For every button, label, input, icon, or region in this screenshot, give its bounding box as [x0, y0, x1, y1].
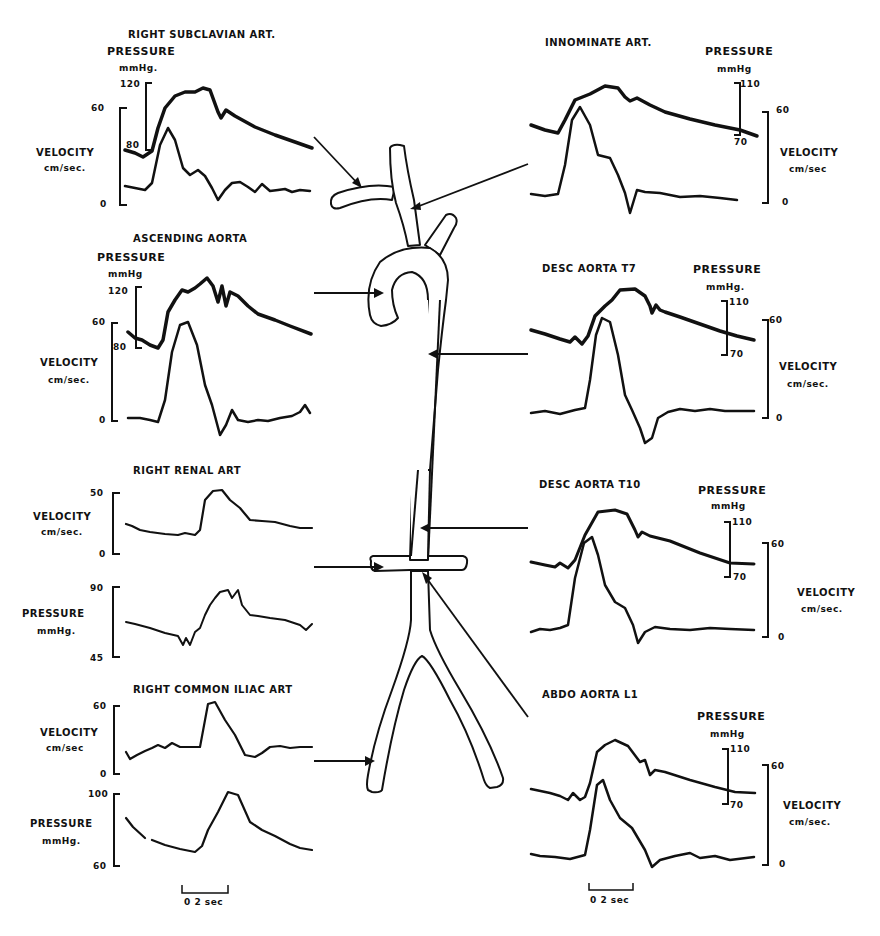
pressure-axis [113, 587, 120, 657]
velocity-unit: cm/sec. [48, 376, 90, 385]
pressure-tick-max: 110 [729, 298, 749, 307]
velocity-tick-max: 60 [776, 106, 790, 115]
pressure-tick-max: 110 [730, 745, 750, 754]
pressure-label: PRESSURE [107, 46, 175, 57]
pressure-axis [114, 794, 120, 866]
pressure-tick-min: 70 [730, 801, 744, 810]
panel-title-desc-aorta-t7: DESC AORTA T7 [542, 264, 636, 274]
pressure-axis [722, 749, 728, 804]
velocity-tick-min: 0 [100, 770, 107, 779]
velocity-tick-max: 60 [93, 702, 107, 711]
velocity-tick-min: 0 [778, 633, 785, 642]
scale-bar-right-label: 0 2 sec [590, 896, 629, 905]
pressure-trace [531, 86, 757, 136]
velocity-unit: cm/sec. [789, 818, 831, 827]
pressure-axis [721, 301, 727, 355]
panel-title-desc-aorta-t10: DESC AORTA T10 [539, 480, 641, 490]
pressure-tick-max: 120 [120, 80, 140, 89]
pressure-tick-max: 100 [88, 790, 108, 799]
pressure-tick-max: 110 [732, 518, 752, 527]
pressure-tick-max: 90 [90, 584, 104, 593]
pressure-tick-max: 110 [740, 80, 760, 89]
pressure-tick-min: 70 [730, 350, 744, 359]
panel-ascending-aorta-traces [112, 278, 311, 435]
pressure-iliac-trace [126, 792, 312, 852]
pressure-unit: mmHg. [37, 627, 76, 636]
panel-innominate-traces [531, 83, 768, 213]
velocity-tick-min: 0 [100, 200, 107, 209]
velocity-tick-min: 0 [99, 416, 106, 425]
velocity-axis [762, 543, 768, 637]
panel-title-abdo-aorta-l1: ABDO AORTA L1 [542, 690, 638, 700]
velocity-label: VELOCITY [783, 801, 841, 811]
pressure-tick-min: 70 [733, 573, 747, 582]
arrow-innominate [414, 164, 528, 208]
pressure-label: PRESSURE [705, 46, 773, 57]
velocity-trace [128, 322, 310, 435]
panel-title-right-common-iliac: RIGHT COMMON ILIAC ART [133, 685, 293, 695]
pressure-trace [125, 88, 312, 157]
velocity-trace [531, 537, 754, 643]
velocity-axis [112, 323, 118, 421]
velocity-axis [120, 108, 127, 205]
panel-right-common-iliac-traces [114, 702, 312, 866]
velocity-unit: cm/sec [789, 165, 827, 174]
velocity-unit: cm/sec. [801, 605, 843, 614]
arrow-right-subclavian [314, 137, 360, 186]
velocity-tick-min: 0 [776, 414, 783, 423]
velocity-tick-max: 50 [90, 489, 104, 498]
pressure-tick-min: 45 [90, 654, 104, 663]
arrow-abdo-aorta-l1 [425, 576, 528, 717]
velocity-unit: cm/sec. [41, 528, 83, 537]
pressure-trace [531, 740, 755, 800]
velocity-tick-max: 60 [91, 104, 105, 113]
velocity-axis [762, 320, 768, 418]
pressure-tick-max: 120 [108, 287, 128, 296]
panel-title-innominate: INNOMINATE ART. [545, 38, 652, 48]
pressure-unit: mmHg. [42, 837, 81, 846]
pressure-unit: mmHg [717, 65, 752, 74]
velocity-unit: cm/sec [46, 744, 84, 753]
pressure-axis [146, 83, 152, 150]
pressure-unit: mmHg. [119, 64, 158, 73]
velocity-tick-min: 0 [779, 860, 786, 869]
panel-title-right-renal: RIGHT RENAL ART [133, 466, 241, 476]
velocity-axis [113, 493, 120, 554]
velocity-tick-max: 60 [771, 540, 785, 549]
velocity-tick-max: 60 [771, 762, 785, 771]
velocity-label: VELOCITY [36, 148, 94, 158]
velocity-axis [762, 112, 768, 203]
aorta-schematic [331, 145, 503, 792]
velocity-trace [531, 318, 754, 443]
pressure-unit: mmHg [710, 730, 745, 739]
pressure-label: PRESSURE [697, 711, 765, 722]
velocity-label: VELOCITY [780, 148, 838, 158]
pressure-tick-min: 80 [113, 343, 127, 352]
velocity-iliac-trace [126, 702, 312, 759]
scale-bar-left [182, 885, 228, 893]
pressure-tick-min: 60 [93, 862, 107, 871]
pressure-label: PRESSURE [22, 609, 84, 619]
pressure-label: PRESSURE [97, 252, 165, 263]
pressure-label: PRESSURE [698, 485, 766, 496]
velocity-axis [114, 706, 120, 774]
pressure-renal-trace [126, 590, 312, 645]
velocity-tick-min: 0 [782, 198, 789, 207]
velocity-tick-min: 0 [99, 550, 106, 559]
panel-desc-aorta-t7-traces [531, 289, 768, 443]
pressure-unit: mmHg [108, 270, 143, 279]
velocity-label: VELOCITY [40, 728, 98, 738]
pressure-tick-min: 80 [126, 141, 140, 150]
pressure-trace [531, 510, 754, 568]
pressure-label: PRESSURE [693, 264, 761, 275]
pressure-unit: mmHg. [706, 283, 745, 292]
panel-title-ascending-aorta: ASCENDING AORTA [133, 234, 247, 244]
velocity-tick-max: 60 [769, 316, 783, 325]
velocity-unit: cm/sec. [787, 380, 829, 389]
panel-right-subclavian-traces [120, 83, 312, 205]
panel-right-renal-traces [113, 490, 312, 657]
pressure-unit: mmHg [711, 502, 746, 511]
pressure-tick-min: 70 [734, 138, 748, 147]
velocity-trace [531, 780, 754, 867]
velocity-label: VELOCITY [779, 362, 837, 372]
